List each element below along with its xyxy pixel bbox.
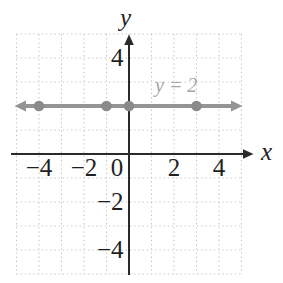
- y-axis-label: y: [120, 5, 131, 30]
- data-point: [101, 101, 112, 112]
- x-tick-label: 0: [111, 154, 124, 181]
- x-tick-label: −2: [71, 154, 98, 181]
- y-tick-label: −2: [97, 188, 124, 215]
- data-point: [124, 101, 135, 112]
- x-tick-label: 2: [168, 154, 181, 181]
- coordinate-plane-figure: −4−20244−2−4 y x y = 2: [0, 0, 283, 283]
- y-tick-label: 4: [111, 44, 124, 71]
- data-point: [191, 101, 202, 112]
- x-axis-label: x: [261, 139, 272, 164]
- line-equation-label: y = 2: [155, 75, 197, 95]
- x-axis-arrowhead: [243, 149, 254, 159]
- y-tick-label: −4: [97, 236, 124, 263]
- y-axis-arrowhead: [124, 35, 134, 46]
- x-tick-label: −4: [26, 154, 53, 181]
- coordinate-grid: −4−20244−2−4: [0, 0, 283, 283]
- x-tick-label: 4: [213, 154, 226, 181]
- data-point: [34, 101, 45, 112]
- graph-line-arrowhead-right: [231, 101, 243, 112]
